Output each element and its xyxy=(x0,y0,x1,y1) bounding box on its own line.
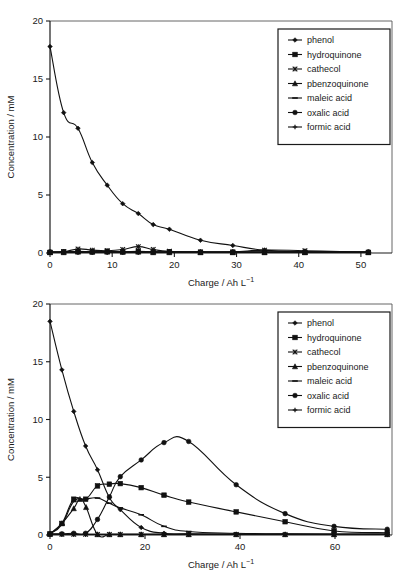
x-axis-title-exponent: −1 xyxy=(246,276,254,283)
legend-item-label: oxalic acid xyxy=(307,108,349,118)
marker-square xyxy=(234,510,239,515)
y-tick-label: 0 xyxy=(38,529,43,540)
data-point-circle xyxy=(283,511,288,516)
series-hydroquinone xyxy=(48,481,390,536)
x-tick-label: 40 xyxy=(293,259,304,270)
marker-circle xyxy=(332,524,337,529)
data-point-circle xyxy=(234,482,239,487)
data-point-square xyxy=(139,485,144,490)
marker-circle xyxy=(95,517,100,522)
data-point-circle xyxy=(293,110,298,115)
y-tick-label: 0 xyxy=(38,247,43,258)
legend-item-label: phenol xyxy=(307,35,334,45)
legend-item-label: hydroquinone xyxy=(307,50,362,60)
legend-item-label: pbenzoquinone xyxy=(307,362,369,372)
marker-square xyxy=(95,484,100,489)
data-point-triangle xyxy=(84,505,89,510)
series-line xyxy=(50,437,387,535)
y-tick-label: 10 xyxy=(32,414,43,425)
x-tick-label: 20 xyxy=(169,259,180,270)
data-point-square xyxy=(186,500,191,505)
data-point-diamond xyxy=(231,243,236,248)
marker-square xyxy=(293,52,298,57)
marker-circle xyxy=(293,110,298,115)
y-tick-label: 10 xyxy=(32,131,43,142)
data-point-circle xyxy=(118,474,123,479)
data-point-diamond xyxy=(48,319,53,324)
data-point-diamond xyxy=(151,222,156,227)
chart-panel-bottom: 051015200204060Concentration / mMCharge … xyxy=(0,290,403,572)
marker-circle xyxy=(293,393,298,398)
line-chart-bottom: 051015200204060Concentration / mMCharge … xyxy=(0,290,403,572)
data-point-circle xyxy=(293,393,298,398)
marker-square xyxy=(293,335,298,340)
x-tick-label: 10 xyxy=(107,259,118,270)
legend-item-label: pbenzoquinone xyxy=(307,79,369,89)
legend-item-label: cathecol xyxy=(307,347,341,357)
data-point-circle xyxy=(139,458,144,463)
series-line xyxy=(50,498,387,535)
data-point-diamond xyxy=(90,160,95,165)
line-chart-top: 0510152001020304050Concentration / mMCha… xyxy=(0,0,403,290)
data-point-diamond xyxy=(167,227,172,232)
legend-item-label: hydroquinone xyxy=(307,333,362,343)
marker-diamond xyxy=(198,238,203,243)
marker-diamond xyxy=(231,243,236,248)
y-axis-title: Concentration / mM xyxy=(5,95,16,178)
x-tick-label: 0 xyxy=(47,541,52,552)
data-point-diamond xyxy=(71,409,76,414)
x-tick-label: 50 xyxy=(356,259,367,270)
data-point-diamond xyxy=(95,467,100,472)
x-axis-title-exponent: −1 xyxy=(246,558,254,565)
marker-circle xyxy=(139,458,144,463)
x-tick-label: 60 xyxy=(330,541,341,552)
data-point-diamond xyxy=(61,110,66,115)
legend-item-label: formic acid xyxy=(307,122,351,132)
data-point-square xyxy=(118,481,123,486)
data-point-circle xyxy=(186,439,191,444)
marker-circle xyxy=(162,440,167,445)
marker-square xyxy=(139,485,144,490)
marker-square xyxy=(186,500,191,505)
series-maleic-acid xyxy=(47,498,390,535)
data-point-circle xyxy=(95,517,100,522)
legend-item-label: maleic acid xyxy=(307,93,352,103)
data-point-circle xyxy=(385,527,390,532)
marker-square xyxy=(283,519,288,524)
data-point-circle xyxy=(162,440,167,445)
x-axis-title: Charge / Ah L−1 xyxy=(188,558,254,570)
marker-diamond xyxy=(167,227,172,232)
data-point-diamond xyxy=(139,525,144,530)
legend-item-label: oxalic acid xyxy=(307,391,349,401)
marker-circle xyxy=(385,527,390,532)
marker-diamond xyxy=(48,319,53,324)
marker-diamond xyxy=(71,409,76,414)
marker-square xyxy=(107,482,112,487)
x-tick-label: 30 xyxy=(231,259,242,270)
legend: phenolhydroquinonecathecolpbenzoquinonem… xyxy=(278,29,390,145)
x-axis-title: Charge / Ah L−1 xyxy=(188,276,254,288)
data-point-diamond xyxy=(83,444,88,449)
data-point-square xyxy=(162,493,167,498)
data-point-square xyxy=(293,335,298,340)
marker-diamond xyxy=(95,467,100,472)
data-point-square xyxy=(283,519,288,524)
marker-circle xyxy=(186,439,191,444)
marker-circle xyxy=(118,474,123,479)
marker-square xyxy=(162,493,167,498)
marker-diamond xyxy=(139,525,144,530)
y-tick-label: 20 xyxy=(32,15,43,26)
marker-diamond xyxy=(60,368,65,373)
marker-diamond xyxy=(151,222,156,227)
chart-panel-top: 0510152001020304050Concentration / mMCha… xyxy=(0,0,403,290)
two-panel-concentration-figure: 0510152001020304050Concentration / mMCha… xyxy=(0,0,403,572)
marker-diamond xyxy=(61,110,66,115)
data-point-diamond xyxy=(60,368,65,373)
y-tick-label: 5 xyxy=(38,472,43,483)
marker-diamond xyxy=(48,44,53,49)
legend-item-label: formic acid xyxy=(307,405,351,415)
marker-triangle xyxy=(84,505,89,510)
data-point-square xyxy=(107,482,112,487)
marker-diamond xyxy=(90,160,95,165)
data-point-square xyxy=(234,510,239,515)
